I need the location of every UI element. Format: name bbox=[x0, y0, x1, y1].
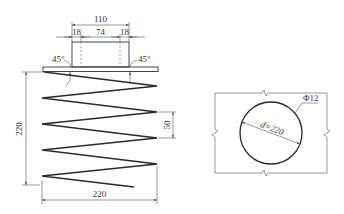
dim-middle-segment: 74 bbox=[96, 27, 106, 37]
flange-block bbox=[72, 42, 129, 67]
technical-drawing: 110 18 74 18 45° 45° 220 50 bbox=[0, 0, 344, 214]
weld-angle-right: 45° bbox=[138, 54, 151, 64]
bar-label: Φ12 bbox=[303, 93, 319, 103]
dim-spring-width: 220 bbox=[93, 189, 107, 199]
base-plate bbox=[43, 67, 158, 72]
plan-section-view: d=220 Φ12 bbox=[212, 90, 330, 176]
dim-right-segment: 18 bbox=[120, 27, 130, 37]
spring-coil bbox=[42, 72, 157, 187]
dim-pitch: 50 bbox=[162, 120, 172, 130]
spring-elevation-view: 110 18 74 18 45° 45° 220 50 bbox=[14, 14, 176, 204]
dim-spring-height: 220 bbox=[14, 122, 24, 136]
dim-left-segment: 18 bbox=[72, 27, 82, 37]
dim-overall-width: 110 bbox=[94, 14, 108, 24]
diameter-label: d=220 bbox=[259, 119, 286, 137]
weld-angle-left: 45° bbox=[52, 54, 65, 64]
